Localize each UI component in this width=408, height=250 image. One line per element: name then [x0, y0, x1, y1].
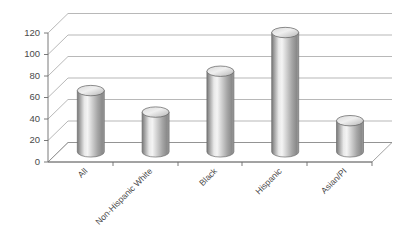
- y-tick-label: 120: [24, 27, 40, 38]
- cylinder-top-cap: [77, 85, 104, 95]
- cylinder-top-cap: [272, 27, 299, 37]
- y-axis-labels: 120 100 80 60 40 20 0: [24, 27, 40, 167]
- cylinder-top-cap: [337, 115, 364, 125]
- bar-cylinder[interactable]: Black: 75: [207, 66, 234, 157]
- x-axis-labels: AllNon-Hispanic WhiteBlackHispanicAsian/…: [76, 165, 349, 226]
- x-tick-label: Non-Hispanic White: [93, 166, 154, 227]
- x-tick-label: Asian/PI: [319, 166, 349, 196]
- y-tick-label: 60: [29, 91, 40, 102]
- cylinder-body: [272, 33, 299, 158]
- x-tick-label: Hispanic: [253, 165, 284, 196]
- bar-cylinder[interactable]: Non-Hispanic White: 37: [142, 107, 169, 157]
- cylinder-top-cap: [142, 107, 169, 117]
- bars-layer: All: 57Non-Hispanic White: 37Black: 75Hi…: [77, 27, 363, 157]
- bar-cylinder[interactable]: Hispanic: 111: [272, 27, 299, 157]
- cylinder-body: [142, 112, 169, 157]
- cylinder-body: [207, 71, 234, 157]
- bar-cylinder[interactable]: All: 57: [77, 85, 104, 157]
- cylinder-top-cap: [207, 66, 234, 76]
- x-tick-label: All: [76, 166, 90, 180]
- bar-chart-3d: 120 100 80 60 40 20 0 All: 57Non-Hispani…: [0, 0, 408, 250]
- y-tick-label: 20: [29, 134, 40, 145]
- y-tick-label: 80: [29, 70, 40, 81]
- y-tick-label: 0: [35, 156, 40, 167]
- y-tick-label: 40: [29, 113, 40, 124]
- chart-container: 120 100 80 60 40 20 0 All: 57Non-Hispani…: [0, 0, 408, 250]
- cylinder-body: [77, 91, 104, 157]
- x-tick-label: Black: [197, 165, 219, 187]
- bar-cylinder[interactable]: Asian/PI: 29: [337, 115, 364, 157]
- y-tick-label: 100: [24, 48, 40, 59]
